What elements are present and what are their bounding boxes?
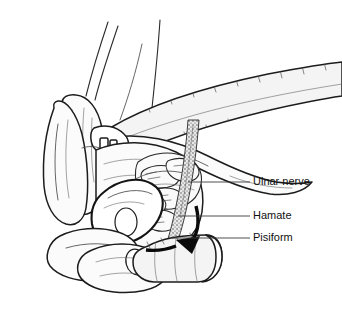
label-hamate: Hamate [253,209,292,221]
label-ulnar-nerve: Ulnar nerve [253,175,310,187]
illustration-canvas: Ulnar nerve Hamate Pisiform [0,0,342,313]
anatomy-figure: Ulnar nerve Hamate Pisiform [0,0,342,313]
label-pisiform: Pisiform [253,231,293,243]
